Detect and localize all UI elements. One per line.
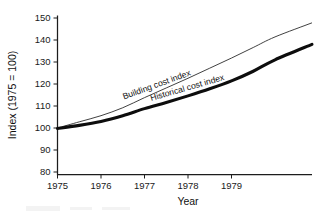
y-tick-label: 150	[35, 12, 51, 23]
x-axis-title: Year	[177, 195, 199, 207]
scan-artifact	[102, 207, 130, 210]
x-tick-label: 1975	[47, 180, 68, 191]
y-tick-label: 120	[35, 78, 51, 89]
x-tick-label: 1977	[134, 180, 155, 191]
scan-artifact	[26, 206, 60, 211]
y-axis-tick-labels: 8090100110120130140150	[35, 12, 51, 177]
x-axis-tick-labels: 19751976197719781979	[47, 180, 242, 191]
y-tick-label: 140	[35, 34, 51, 45]
figure-container: 8090100110120130140150 19751976197719781…	[0, 0, 318, 216]
chart-axes	[58, 16, 312, 175]
y-tick-label: 100	[35, 122, 51, 133]
line-chart: 8090100110120130140150 19751976197719781…	[0, 0, 318, 216]
y-tick-label: 80	[40, 166, 51, 177]
scan-artifact	[70, 207, 92, 210]
x-tick-label: 1979	[221, 180, 242, 191]
y-axis-title: Index (1975 = 100)	[6, 51, 18, 139]
x-tick-label: 1976	[90, 180, 111, 191]
x-tick-label: 1978	[177, 180, 198, 191]
y-tick-label: 110	[35, 100, 50, 111]
y-tick-label: 130	[35, 56, 51, 67]
y-tick-label: 90	[40, 144, 51, 155]
